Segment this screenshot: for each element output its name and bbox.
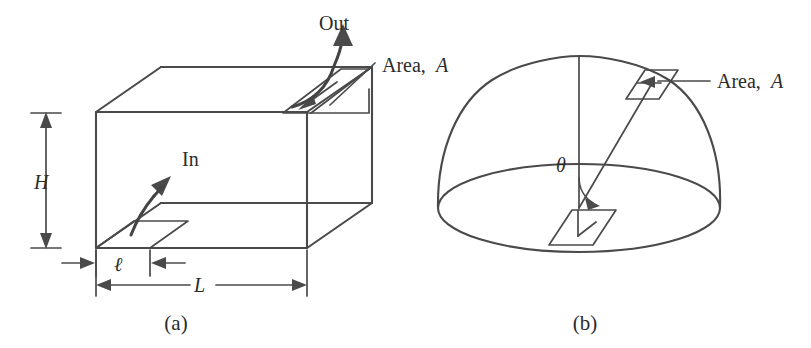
out-label: Out — [319, 12, 349, 34]
panel-b-caption: (b) — [573, 311, 598, 335]
panel-a-caption: (a) — [164, 311, 187, 335]
length-dimension: L — [96, 250, 307, 296]
height-dimension: H — [31, 112, 61, 249]
panel-b-area-label-text: Area, — [717, 70, 761, 92]
theta-label: θ — [556, 154, 566, 176]
out-flow-arrow — [292, 24, 353, 107]
dome-patch-normal-arrow — [640, 76, 655, 88]
length-label: L — [193, 274, 205, 296]
panel-b-area-label-symbol: A — [769, 70, 784, 92]
panel-b-group: θ Area, A (b) — [438, 56, 784, 335]
in-flow-arrow — [131, 176, 171, 235]
panel-a-group: Out In Area, A H ℓ — [31, 12, 449, 335]
in-label: In — [182, 148, 199, 170]
hemisphere-radius-ray — [579, 85, 651, 208]
box-bottom-back-edges — [96, 203, 372, 248]
thickness-dimension: ℓ — [62, 250, 185, 276]
panel-a-area-label: Area, A — [382, 54, 449, 76]
panel-b-base-area-patch — [549, 210, 616, 245]
panel-a-area-label-symbol: A — [434, 54, 449, 76]
height-label: H — [33, 171, 50, 193]
panel-a-area-label-text: Area, — [382, 54, 426, 76]
figure-container: Out In Area, A H ℓ — [0, 0, 811, 348]
panel-b-area-label: Area, A — [717, 70, 784, 92]
flux-diagram-svg: Out In Area, A H ℓ — [0, 0, 811, 348]
theta-angle-arc — [579, 178, 600, 210]
thickness-label: ℓ — [114, 253, 123, 275]
box-front-face — [96, 112, 307, 248]
box-inlet-area-patch — [96, 221, 188, 248]
